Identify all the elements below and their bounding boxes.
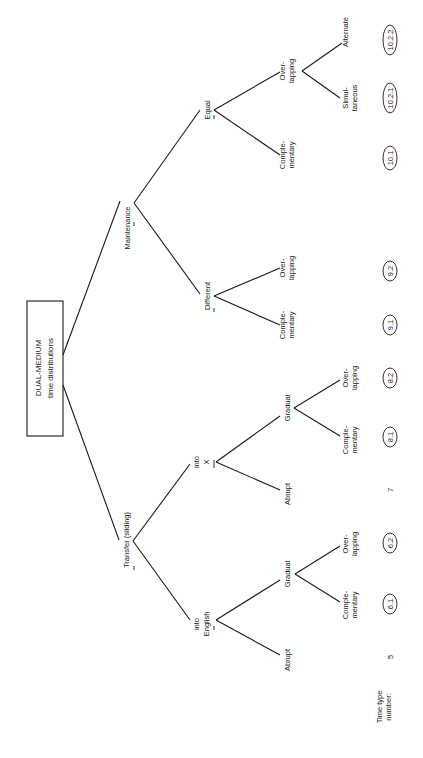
edge-transfer-intox	[133, 464, 190, 541]
node-eng-grad-comp-line1: Comple-	[341, 590, 350, 619]
edge-intox-abrupt	[216, 462, 280, 490]
node-maintenance: Maintenance	[123, 207, 132, 250]
edge-intoenglish-abrupt	[216, 620, 280, 655]
dual-medium-tree-diagram: DUAL-MEDIUM time distributions Maintenan…	[0, 0, 423, 758]
edge-xgrad-over	[294, 380, 340, 408]
time-type-6-2: 6.2	[386, 538, 395, 548]
node-eq-comp-line2: mentary	[287, 141, 296, 168]
node-intoenglish-line2: English	[202, 612, 211, 637]
node-intox-line2: X	[202, 459, 211, 464]
node-eq-over-line2: lapping	[287, 59, 296, 83]
node-different: Different	[203, 281, 212, 310]
time-type-7: 7	[386, 488, 395, 492]
node-diff-comp-line2: mentary	[287, 311, 296, 338]
time-type-10-2-1: 10.2.1	[386, 88, 395, 109]
node-x-grad-comp-line2: mentary	[350, 426, 359, 453]
node-intox-line1: into	[192, 456, 201, 468]
node-eq-over-alt: Alternate	[341, 17, 350, 47]
node-x-grad-over-line2: lapping	[350, 366, 359, 390]
edge-root-transfer	[63, 385, 119, 540]
node-x-grad-comp-line1: Comple-	[341, 425, 350, 454]
node-eng-grad-comp-line2: mentary	[350, 591, 359, 618]
edge-eqover-simul	[302, 71, 340, 98]
node-x-gradual: Gradual	[283, 394, 292, 421]
node-eng-grad-over-line2: lapping	[350, 532, 359, 556]
node-diff-comp-line1: Comple-	[278, 310, 287, 339]
time-type-label-line1: Time type	[375, 691, 384, 724]
edge-equal-comp	[214, 110, 280, 155]
time-type-8-2: 8.2	[386, 373, 395, 383]
root-label-line2: time distributions	[46, 338, 55, 398]
node-eng-gradual: Gradual	[283, 560, 292, 587]
node-x-grad-over-line1: Over-	[341, 368, 350, 387]
time-type-6-1: 6.1	[386, 599, 395, 609]
node-eq-over-simul-line1: Simul-	[341, 87, 350, 109]
edge-maintenance-equal	[134, 110, 200, 203]
node-diff-over-line1: Over-	[278, 258, 287, 277]
edge-maintenance-different	[134, 203, 200, 294]
root-box	[27, 301, 63, 436]
edge-equal-over	[214, 72, 280, 110]
time-type-5: 5	[386, 655, 395, 659]
edge-root-maintenance	[63, 201, 120, 355]
time-type-10-2-2: 10.2.2	[386, 30, 395, 51]
time-type-9-2: 9.2	[386, 266, 395, 276]
time-type-label-line2: number:	[384, 693, 393, 721]
node-intoenglish-line1: into	[192, 618, 201, 630]
edge-intoenglish-gradual	[216, 580, 280, 620]
time-type-8-1: 8.1	[386, 432, 395, 442]
node-eq-over-line1: Over-	[278, 61, 287, 80]
time-type-10-1: 10.1	[386, 151, 395, 166]
edge-different-comp	[214, 296, 280, 325]
node-eng-grad-over-line1: Over-	[341, 534, 350, 553]
edge-enggrad-over	[295, 546, 340, 574]
node-transfer: Transfer (sliding)	[122, 512, 131, 568]
edge-xgrad-comp	[294, 408, 340, 436]
edge-intox-gradual	[216, 416, 280, 462]
node-equal: Equal	[203, 100, 212, 120]
node-x-abrupt: Abrupt	[283, 482, 292, 505]
node-eq-comp-line1: Comple-	[278, 140, 287, 169]
edge-enggrad-comp	[295, 574, 340, 602]
node-eq-over-simul-line2: taneous	[350, 84, 359, 111]
edge-eqover-alt	[302, 43, 342, 71]
node-diff-over-line2: lapping	[287, 256, 296, 280]
edge-transfer-intoenglish	[133, 541, 190, 620]
root-label-line1: DUAL-MEDIUM	[34, 339, 43, 396]
time-type-9-1: 9.1	[386, 320, 395, 330]
edge-different-over	[214, 268, 280, 296]
node-eng-abrupt: Abrupt	[283, 648, 292, 671]
